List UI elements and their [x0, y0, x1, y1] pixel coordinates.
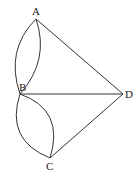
label-D: D	[125, 88, 133, 100]
label-C: C	[46, 160, 53, 172]
label-A: A	[32, 5, 40, 17]
arc-BC-outer	[16, 94, 50, 158]
arc-BC-inner	[20, 94, 54, 158]
label-B: B	[19, 81, 26, 93]
geometry-diagram: A B D C	[0, 0, 139, 180]
diagram-svg: A B D C	[0, 0, 139, 180]
segment-AD	[36, 19, 123, 94]
segment-CD	[50, 94, 123, 158]
